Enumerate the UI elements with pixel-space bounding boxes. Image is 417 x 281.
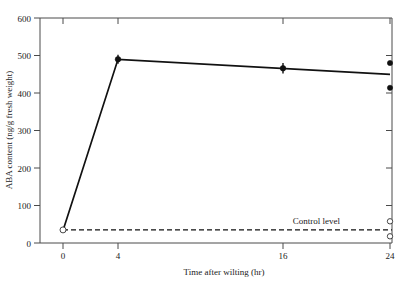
control-level-annotation: Control level (293, 216, 341, 226)
y-tick-label: 600 (18, 14, 32, 24)
y-tick-label: 100 (18, 201, 32, 211)
data-point-filled (115, 57, 121, 63)
x-axis-title: Time after wilting (hr) (184, 267, 265, 277)
y-tick-label: 200 (18, 164, 32, 174)
aba-content-line-chart: 600 500 400 300 200 100 0 0 4 16 24 Time… (0, 0, 417, 281)
y-tick-label: 500 (18, 51, 32, 61)
data-point-open (387, 234, 392, 239)
x-tick-label: 4 (116, 251, 121, 261)
data-point-filled (387, 60, 392, 65)
y-tick-label: 300 (18, 126, 32, 136)
y-tick-label: 400 (18, 89, 32, 99)
data-point-filled (387, 85, 392, 90)
data-point-open (60, 227, 66, 233)
data-point-open (387, 219, 392, 224)
y-tick-label: 0 (27, 239, 32, 249)
x-tick-label: 24 (386, 251, 396, 261)
chart-background (0, 0, 417, 281)
x-tick-label: 0 (61, 251, 66, 261)
chart-svg: 600 500 400 300 200 100 0 0 4 16 24 Time… (0, 0, 417, 281)
data-point-filled (280, 66, 286, 72)
y-axis-title: ABA content (ng/g fresh weight) (4, 71, 14, 189)
x-tick-label: 16 (279, 251, 289, 261)
